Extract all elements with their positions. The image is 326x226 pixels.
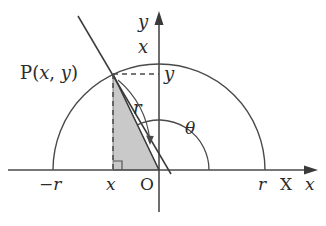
radius-label: r (133, 99, 142, 117)
trig-semicircle-diagram: P(x, y) y x y r θ −r x O r X x (0, 0, 326, 226)
point-p-paren-close: ) (71, 62, 78, 83)
point-p-name: P (20, 62, 32, 83)
x-component-label: x (138, 38, 148, 56)
point-p-comma: , (49, 62, 55, 83)
point-p-label: P(x, y) (20, 64, 78, 82)
negative-r-label: −r (39, 176, 61, 193)
y-axis-arrowhead (155, 11, 164, 25)
x-axis-capital-label: X (280, 176, 292, 193)
origin-label: O (140, 176, 154, 193)
x-foot-label: x (106, 176, 116, 193)
theta-label: θ (185, 120, 195, 137)
point-p-y: y (61, 62, 71, 83)
y-axis-label: y (138, 13, 148, 31)
x-axis-small-label: x (305, 176, 315, 193)
positive-r-label: r (258, 176, 266, 193)
point-p-x: x (39, 62, 49, 83)
y-projection-label: y (164, 65, 174, 83)
